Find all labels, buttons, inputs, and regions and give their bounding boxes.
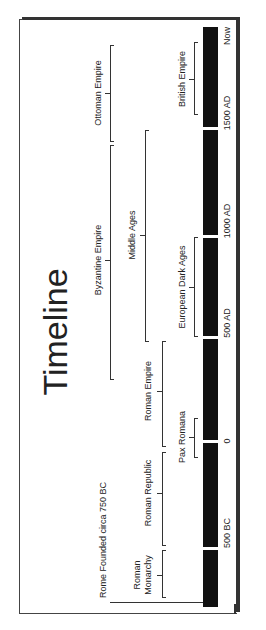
bracket-end: [145, 130, 149, 131]
bracket-end: [110, 379, 114, 380]
bracket-end: [194, 336, 198, 337]
period-label-line2: Monarchy: [144, 555, 153, 595]
bar-segment-1000-1500: [203, 130, 218, 235]
tick-label-500bc: 500 BC: [223, 518, 232, 548]
bracket-end: [194, 237, 198, 238]
bracket-line: [162, 550, 163, 598]
bracket-mid: [189, 287, 194, 288]
bracket-end: [194, 114, 198, 115]
tick-label-1500ad: 1500 AD: [223, 96, 232, 131]
page-title: Timeline: [38, 268, 72, 395]
bracket-end: [162, 550, 166, 551]
period-label: Ottoman Empire: [94, 60, 103, 126]
event-line: [110, 602, 203, 603]
bracket-line: [194, 42, 195, 115]
bracket-end: [162, 545, 166, 546]
bracket-mid: [105, 260, 110, 261]
bracket-end: [162, 341, 166, 342]
bracket-end: [110, 45, 114, 46]
bracket-end: [162, 452, 166, 453]
bar-segment-before-500bc: [203, 550, 218, 607]
period-label: Middle Ages: [128, 210, 137, 259]
bracket-end: [110, 145, 114, 146]
period-label: European Dark Ages: [178, 245, 187, 328]
bracket-line: [145, 130, 146, 342]
bar-segment-500bc-0: [203, 443, 218, 547]
period-label: Byzantine Empire: [94, 225, 103, 296]
period-label: Roman Republic: [144, 460, 153, 527]
bracket-end: [145, 341, 149, 342]
bracket-end: [194, 457, 198, 458]
frame-right-border: [236, 17, 240, 612]
bar-segment-1500-now: [203, 27, 218, 127]
bracket-mid: [157, 391, 162, 392]
tick-label-now: Now: [223, 27, 232, 45]
bracket-end: [162, 597, 166, 598]
bracket-mid: [105, 93, 110, 94]
period-label: British Empire: [178, 51, 187, 107]
bracket-mid: [157, 493, 162, 494]
bracket-mid: [189, 79, 194, 80]
bracket-line: [110, 45, 111, 142]
bracket-line: [194, 237, 195, 337]
period-label: Pax Romana: [178, 411, 187, 463]
bar-segment-0-500: [203, 339, 218, 440]
bracket-line: [162, 452, 163, 546]
period-label-line1: Roman: [133, 560, 142, 589]
bracket-mid: [140, 235, 145, 236]
frame-bottom-border: [19, 613, 237, 614]
event-label: Rome Founded circa 750 BC: [99, 482, 108, 598]
tick-label-500ad: 500 AD: [223, 308, 232, 338]
frame-shadow: [234, 604, 236, 614]
tick-label-1000ad: 1000 AD: [223, 204, 232, 239]
frame-top-border: [22, 17, 240, 20]
bracket-end: [194, 418, 198, 419]
bracket-end: [110, 141, 114, 142]
bracket-mid: [189, 437, 194, 438]
bracket-mid: [157, 575, 162, 576]
bracket-end: [162, 446, 166, 447]
bar-segment-500-1000: [203, 238, 218, 336]
period-label: Roman Empire: [144, 361, 153, 421]
frame-left-border: [19, 20, 20, 614]
bracket-line: [110, 145, 111, 380]
bracket-line: [194, 418, 195, 458]
bracket-line: [162, 341, 163, 447]
tick-label-0: 0: [223, 438, 232, 443]
bracket-end: [194, 42, 198, 43]
